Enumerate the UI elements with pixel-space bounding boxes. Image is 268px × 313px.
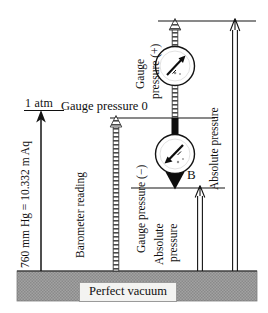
absolute-pressure-mid-arrow bbox=[195, 186, 205, 272]
label-absolute-pressure-right: Absolute pressure bbox=[209, 107, 221, 190]
label-one-atm: 1 atm bbox=[25, 97, 53, 109]
barometer-arrow bbox=[110, 116, 122, 272]
label-point-b: B bbox=[187, 168, 196, 181]
label-gauge-pressure-positive-line1: Gauge bbox=[135, 59, 147, 89]
label-barometer-reading: Barometer reading bbox=[75, 172, 87, 258]
absolute-pressure-right-arrow bbox=[230, 19, 240, 272]
label-mm-hg-equivalent: 760 mm Hg = 10.332 m Aq bbox=[20, 141, 32, 268]
pressure-diagram: 1 atm 760 mm Hg = 10.332 m Aq Gauge pres… bbox=[0, 0, 268, 313]
label-one-atm-underline bbox=[24, 110, 64, 111]
label-gauge-pressure-positive-line2: pressure (+) bbox=[150, 44, 162, 99]
diagram-canvas bbox=[0, 0, 268, 313]
label-gauge-pressure-zero: Gauge pressure 0 bbox=[61, 100, 148, 113]
label-absolute-pressure-mid-line2: pressure bbox=[168, 224, 180, 262]
label-absolute-pressure-mid-line1: Absolute bbox=[154, 223, 166, 265]
label-gauge-pressure-negative: Gauge pressure (−) bbox=[136, 165, 148, 253]
atm-arrow bbox=[36, 110, 46, 271]
label-perfect-vacuum: Perfect vacuum bbox=[79, 282, 177, 302]
